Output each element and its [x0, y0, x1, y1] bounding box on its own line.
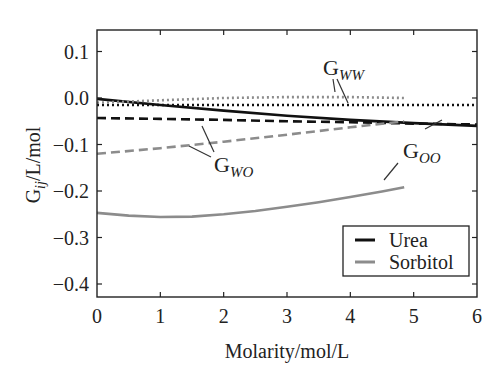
x-axis-title: Molarity/mol/L — [225, 340, 349, 363]
x-tick-label: 6 — [472, 305, 482, 327]
x-tick-label: 0 — [92, 305, 102, 327]
axis-ticks: 01234560.10.0−0.1−0.2−0.3−0.4 — [53, 30, 482, 327]
y-tick-label: −0.1 — [53, 134, 89, 156]
series-sorbitol-g-wo — [97, 121, 404, 154]
y-tick-label: 0.0 — [64, 87, 89, 109]
x-tick-label: 1 — [155, 305, 165, 327]
y-tick-label: −0.4 — [53, 273, 89, 295]
chart-canvas: 01234560.10.0−0.1−0.2−0.3−0.4 Gij/L/mol … — [0, 0, 501, 374]
annotation-gwo: GWO — [189, 126, 253, 180]
y-tick-label: −0.2 — [53, 180, 89, 202]
legend-sorbitol-label: Sorbitol — [389, 251, 454, 273]
svg-text:GOO: GOO — [403, 138, 441, 166]
svg-text:GWO: GWO — [214, 152, 253, 180]
x-tick-label: 3 — [282, 305, 292, 327]
series-sorbitol-g-ww — [97, 97, 404, 103]
y-axis-title: Gij/L/mol — [22, 126, 48, 203]
legend: Urea Sorbitol — [343, 226, 469, 276]
series-sorbitol-g-oo — [97, 187, 404, 217]
x-tick-label: 2 — [219, 305, 229, 327]
y-tick-label: −0.3 — [53, 227, 89, 249]
x-tick-label: 5 — [409, 305, 419, 327]
series-urea-g-wo — [97, 118, 477, 125]
legend-urea-label: Urea — [389, 229, 428, 251]
x-tick-label: 4 — [345, 305, 355, 327]
annotation-gww: GWW — [323, 55, 365, 103]
y-tick-label: 0.1 — [64, 41, 89, 63]
annotation-goo: GOO — [384, 120, 442, 180]
svg-text:GWW: GWW — [323, 55, 365, 83]
